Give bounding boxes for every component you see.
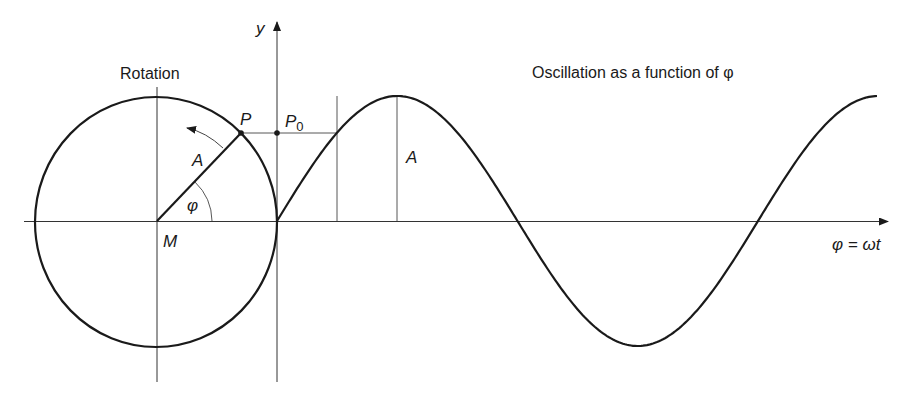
x-axis-label: φ = ωt bbox=[832, 235, 882, 254]
point-p0-subscript: 0 bbox=[296, 119, 303, 134]
amplitude-label: A bbox=[405, 148, 417, 167]
rotation-title: Rotation bbox=[120, 65, 180, 82]
point-p0-label: P0 bbox=[285, 112, 304, 134]
angle-label: φ bbox=[187, 196, 198, 215]
rotation-oscillation-diagram: Rotation Oscillation as a function of φ … bbox=[0, 0, 910, 396]
rotation-direction-arrow bbox=[187, 128, 223, 148]
y-axis-label: y bbox=[255, 19, 266, 38]
center-label: M bbox=[163, 232, 178, 251]
point-p0-dot bbox=[274, 130, 280, 136]
oscillation-title: Oscillation as a function of φ bbox=[532, 64, 734, 81]
point-p0-main: P bbox=[285, 112, 297, 131]
point-p-label: P bbox=[240, 110, 252, 129]
radius-line bbox=[157, 133, 241, 221]
point-p-dot bbox=[238, 130, 244, 136]
radius-label: A bbox=[191, 151, 203, 170]
